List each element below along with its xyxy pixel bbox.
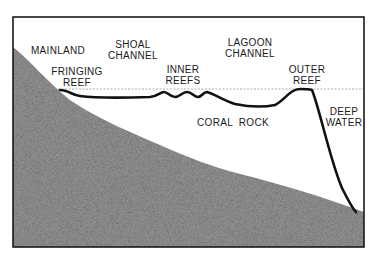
label-outer-reef: OUTER REEF bbox=[289, 64, 326, 86]
label-lagoon-channel: LAGOON CHANNEL bbox=[225, 37, 275, 59]
label-fringing-reef: FRINGING REEF bbox=[51, 66, 102, 88]
label-shoal-channel: SHOAL CHANNEL bbox=[108, 39, 158, 61]
reef-cross-section-diagram bbox=[0, 0, 382, 258]
label-inner-reefs: INNER REEFS bbox=[166, 64, 201, 86]
label-mainland: MAINLAND bbox=[31, 45, 85, 56]
label-coral-rock: CORAL ROCK bbox=[197, 117, 269, 128]
label-deep-water: DEEP WATER bbox=[326, 106, 363, 128]
